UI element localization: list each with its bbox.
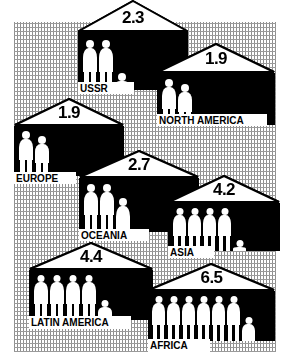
label-ussr: USSR — [78, 82, 134, 94]
person-icon — [167, 296, 180, 341]
roof-north-america: 1.9 — [157, 43, 275, 73]
person-icon-partial — [116, 198, 130, 232]
label-asia: ASIA — [168, 246, 214, 258]
figure-group-latin-america — [34, 275, 112, 320]
house-body-africa — [148, 291, 275, 341]
value-oceania: 2.7 — [79, 155, 199, 175]
house-body-latin-america — [29, 270, 153, 320]
figure-group-oceania — [84, 184, 130, 232]
house-africa: 6.5 — [148, 263, 275, 341]
value-africa: 6.5 — [148, 268, 275, 288]
house-north-america: 1.9 NORTH AMERICA — [157, 43, 275, 125]
label-north-america: NORTH AMERICA — [157, 114, 267, 126]
value-europe: 1.9 — [14, 103, 124, 123]
person-icon — [82, 275, 96, 320]
person-icon — [100, 184, 114, 232]
person-icon — [66, 275, 80, 320]
value-asia: 4.2 — [168, 180, 280, 200]
value-latin-america: 4.4 — [29, 247, 153, 267]
person-icon — [152, 296, 165, 341]
person-icon-partial — [35, 136, 49, 176]
label-africa: AFRICA — [148, 339, 210, 352]
person-icon — [50, 275, 64, 320]
person-icon-partial — [233, 240, 246, 251]
person-icon — [19, 131, 33, 176]
value-north-america: 1.9 — [157, 49, 275, 69]
person-icon-partial — [242, 317, 255, 341]
person-icon — [203, 208, 216, 251]
person-icon — [188, 208, 201, 251]
roof-oceania: 2.7 — [79, 150, 199, 178]
roof-africa: 6.5 — [148, 263, 275, 291]
person-icon — [34, 275, 48, 320]
house-body-asia — [168, 203, 280, 251]
label-latin-america: LATIN AMERICA — [29, 316, 131, 329]
person-icon — [173, 208, 186, 251]
house-latin-america: 4.4 — [29, 242, 153, 320]
person-icon — [182, 296, 195, 341]
person-icon — [227, 296, 240, 341]
person-icon — [197, 296, 210, 341]
label-oceania: OCEANIA — [79, 229, 149, 241]
roof-europe: 1.9 — [14, 98, 124, 126]
roof-ussr: 2.3 — [78, 0, 188, 32]
figure-group-asia — [173, 208, 246, 251]
person-icon — [218, 208, 231, 251]
person-icon — [84, 184, 98, 232]
figure-group-europe — [19, 131, 49, 176]
label-europe: EUROPE — [14, 172, 76, 184]
value-ussr: 2.3 — [78, 8, 188, 28]
roof-latin-america: 4.4 — [29, 242, 153, 270]
house-asia: 4.2 — [168, 175, 280, 251]
roof-asia: 4.2 — [168, 175, 280, 203]
figure-group-africa — [152, 296, 255, 341]
person-icon — [212, 296, 225, 341]
